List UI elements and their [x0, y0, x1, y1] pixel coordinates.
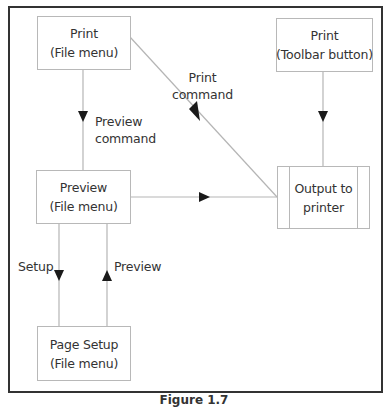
node-label-line2: (File menu)	[49, 197, 117, 216]
arrowhead-down-icon	[318, 111, 328, 122]
edge-label-line2: command	[95, 130, 156, 147]
arrowhead-up-icon	[102, 270, 112, 281]
node-label-line1: Print	[70, 24, 98, 43]
arrowhead-down-icon	[78, 111, 88, 122]
edge-label-preview: Preview	[114, 258, 161, 275]
node-label-line2: (File menu)	[50, 354, 118, 373]
edge-label-setup: Setup	[18, 258, 53, 275]
node-label-line1: Preview	[60, 178, 107, 197]
edge-label-preview-command: Preview command	[95, 113, 156, 147]
arrowhead-diagonal-icon	[189, 101, 200, 121]
edge-label-line1: Print	[172, 69, 233, 86]
figure-caption: Figure 1.7	[0, 393, 388, 407]
edge-label-line2: command	[172, 86, 233, 103]
node-output-to-printer: Output to printer	[277, 166, 370, 229]
node-label-line1: Page Setup	[50, 335, 119, 354]
arrowhead-down-icon	[54, 270, 64, 281]
edge-label-text: Preview	[114, 258, 161, 275]
edge-label-text: Setup	[18, 258, 53, 275]
node-page-setup-file-menu: Page Setup (File menu)	[37, 326, 131, 381]
edge-label-line1: Preview	[95, 113, 156, 130]
arrowhead-right-icon	[199, 192, 210, 202]
node-print-toolbar-button: Print (Toolbar button)	[276, 18, 373, 72]
node-label-line2: (Toolbar button)	[276, 45, 373, 64]
node-label-line2: (File menu)	[50, 43, 118, 62]
node-label-line2: printer	[303, 198, 344, 217]
node-label-line1: Output to	[294, 179, 352, 198]
node-preview-file-menu: Preview (File menu)	[36, 170, 131, 224]
node-label-line1: Print	[311, 26, 339, 45]
edge-label-print-command: Print command	[172, 69, 233, 103]
node-print-file-menu: Print (File menu)	[37, 16, 131, 70]
